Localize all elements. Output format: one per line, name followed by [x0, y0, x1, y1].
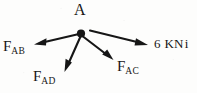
force-vector-ad [65, 37, 81, 73]
magnitude-unit: KN [164, 36, 183, 51]
point-label-a: A [74, 2, 86, 18]
unit-vector-i-icon: i [184, 36, 189, 51]
force-vector-ab [34, 34, 79, 46]
force-diagram-figure: A FAB FAD FAC 6 KNi [0, 0, 197, 93]
force-vector-applied [90, 31, 148, 46]
force-magnitude-label: 6 KNi [154, 37, 189, 50]
force-label-ab: FAB [3, 39, 25, 54]
force-subscript-ad: AD [41, 76, 55, 86]
joint-node-a [77, 29, 85, 37]
force-subscript-ab: AB [11, 46, 25, 56]
force-subscript-ac: AC [125, 66, 139, 76]
force-label-ad: FAD [33, 69, 55, 84]
force-label-ac: FAC [117, 59, 139, 74]
force-vector-ac [83, 37, 114, 61]
magnitude-value: 6 [154, 36, 161, 51]
